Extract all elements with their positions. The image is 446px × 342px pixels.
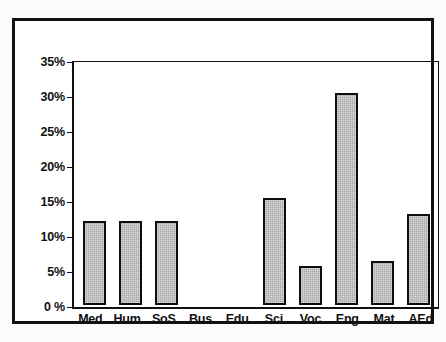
y-tick-label: 5%	[47, 265, 65, 279]
bar-med	[83, 221, 105, 304]
figure-frame: 35% 30% 25% 20% 15%	[12, 18, 434, 324]
y-tick-mark	[67, 132, 74, 133]
y-tick-mark	[67, 62, 74, 63]
y-tick-mark	[67, 202, 74, 203]
bar-slot-hum	[113, 62, 149, 305]
bar-slot-bus	[185, 62, 221, 305]
bar-slot-sos	[149, 62, 185, 305]
bar-slot-mat	[365, 62, 401, 305]
bar-series	[77, 62, 437, 305]
bar-slot-sci	[257, 62, 293, 305]
y-tick-mark	[67, 272, 74, 273]
bar-slot-edu	[221, 62, 257, 305]
plot-wrapper: 35% 30% 25% 20% 15%	[15, 21, 431, 321]
x-label-hum: Hum	[109, 312, 146, 326]
bar-sci	[263, 198, 285, 305]
y-tick-label: 20%	[41, 160, 65, 174]
chart-page: 35% 30% 25% 20% 15%	[0, 0, 446, 342]
x-label-aed: AEd	[402, 312, 439, 326]
x-label-bus: Bus	[182, 312, 219, 326]
bar-voc	[299, 266, 321, 304]
y-tick-mark	[67, 167, 74, 168]
x-label-mat: Mat	[366, 312, 403, 326]
y-tick-label: 10%	[41, 230, 65, 244]
bar-slot-med	[77, 62, 113, 305]
y-tick-mark	[67, 97, 74, 98]
x-label-med: Med	[72, 312, 109, 326]
x-label-eng: Eng	[329, 312, 366, 326]
y-tick-mark	[67, 307, 74, 308]
bar-aed	[407, 214, 429, 305]
bar-slot-aed	[401, 62, 437, 305]
x-axis-labels: Med Hum SoS Bus Edu Sci Voc Eng Mat AEd	[72, 312, 439, 326]
plot-area: 35% 30% 25% 20% 15%	[72, 61, 439, 309]
y-tick-mark	[67, 237, 74, 238]
bar-slot-voc	[293, 62, 329, 305]
x-label-edu: Edu	[219, 312, 256, 326]
y-tick-label: 0 %	[44, 300, 65, 314]
bar-mat	[371, 261, 393, 305]
y-tick-label: 15%	[41, 195, 65, 209]
x-label-sos: SoS	[145, 312, 182, 326]
bar-hum	[119, 221, 141, 304]
bar-sos	[155, 221, 177, 304]
y-tick-label: 25%	[41, 125, 65, 139]
x-label-sci: Sci	[256, 312, 293, 326]
bar-eng	[335, 93, 357, 305]
y-tick-label: 30%	[41, 90, 65, 104]
x-label-voc: Voc	[292, 312, 329, 326]
y-tick-label: 35%	[41, 55, 65, 69]
bar-slot-eng	[329, 62, 365, 305]
